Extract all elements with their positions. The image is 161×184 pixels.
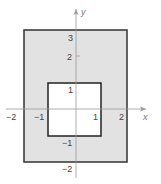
- inner-rectangle: [48, 83, 101, 136]
- x-tick-label: 2: [119, 112, 124, 122]
- y-tick-label: 2: [67, 52, 72, 62]
- x-tick-label: −2: [6, 112, 16, 122]
- y-tick-label: 3: [68, 33, 73, 43]
- x-tick-label: 1: [93, 112, 98, 122]
- y-tick-label: 1: [68, 85, 73, 95]
- x-axis-label: x: [142, 112, 148, 122]
- coordinate-diagram: y x −2 −1 1 2 3 2 1 −1 −2: [0, 0, 161, 184]
- y-axis-label: y: [80, 7, 86, 17]
- y-tick-label: −1: [62, 138, 72, 148]
- y-tick-label: −2: [62, 164, 72, 174]
- x-tick-label: −1: [34, 112, 44, 122]
